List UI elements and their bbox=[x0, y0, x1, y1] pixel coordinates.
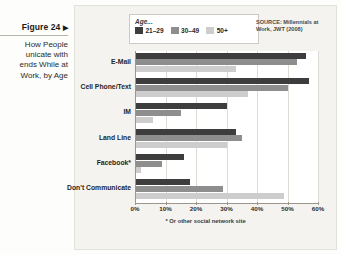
bar bbox=[135, 53, 306, 59]
chart-footnote: * Or other social network site bbox=[75, 218, 336, 224]
bar bbox=[135, 59, 297, 65]
bar bbox=[135, 179, 190, 185]
x-tick-mark bbox=[196, 202, 197, 205]
legend-item-0: 21–29 bbox=[135, 27, 164, 34]
category-label: Land Line bbox=[99, 134, 131, 141]
bar bbox=[135, 78, 309, 84]
x-tick-label: 60% bbox=[312, 205, 324, 212]
figure-number-text: Figure 24 bbox=[22, 22, 61, 32]
category-label: Cell Phone/Text bbox=[81, 83, 131, 90]
bar bbox=[135, 66, 236, 72]
legend-item-1: 30–49 bbox=[171, 27, 200, 34]
bar bbox=[135, 91, 248, 97]
x-tick-mark bbox=[135, 202, 136, 205]
bar-group-3: Land Line bbox=[135, 129, 318, 151]
x-tick-mark bbox=[288, 202, 289, 205]
legend-items: 21–2930–4950+ bbox=[135, 27, 253, 34]
x-tick-label: 50% bbox=[281, 205, 293, 212]
legend-title: Age... bbox=[135, 18, 253, 25]
x-axis-ticks: 0%10%20%30%40%50%60% bbox=[135, 205, 318, 215]
caption-line-1: unicate with bbox=[0, 50, 68, 60]
category-label: E-Mail bbox=[111, 58, 131, 65]
legend-swatch-icon bbox=[206, 27, 214, 34]
x-tick-mark bbox=[227, 202, 228, 205]
category-label: IM bbox=[123, 108, 131, 115]
bar bbox=[135, 129, 236, 135]
bar bbox=[135, 117, 153, 123]
bar-group-0: E-Mail bbox=[135, 53, 318, 75]
legend-label: 30–49 bbox=[181, 27, 199, 34]
category-label: Facebook* bbox=[97, 159, 131, 166]
legend-item-2: 50+ bbox=[206, 27, 228, 34]
bar-group-1: Cell Phone/Text bbox=[135, 78, 318, 100]
caption-line-2: ends While at bbox=[0, 60, 68, 70]
caption-line-3: Work, by Age bbox=[0, 71, 68, 81]
bar bbox=[135, 142, 227, 148]
figure-number: Figure 24 ▶ bbox=[0, 22, 68, 32]
x-tick-label: 10% bbox=[159, 205, 171, 212]
caption-divider bbox=[0, 35, 68, 36]
source-note: SOURCE: Millennials at Work, JWT (2008) bbox=[256, 19, 330, 33]
bar bbox=[135, 154, 184, 160]
y-axis-line bbox=[135, 51, 136, 203]
x-tick-mark bbox=[257, 202, 258, 205]
bar bbox=[135, 103, 227, 109]
category-label: Don't Communicate bbox=[67, 184, 131, 191]
x-tick-label: 20% bbox=[190, 205, 202, 212]
x-tick-mark bbox=[166, 202, 167, 205]
legend-swatch-icon bbox=[171, 27, 179, 34]
bar bbox=[135, 135, 242, 141]
bar bbox=[135, 110, 181, 116]
bar bbox=[135, 161, 162, 167]
x-tick-label: 40% bbox=[251, 205, 263, 212]
bar-group-4: Facebook* bbox=[135, 154, 318, 176]
bar bbox=[135, 85, 288, 91]
x-tick-label: 0% bbox=[131, 205, 140, 212]
chart-panel: Age... 21–2930–4950+ SOURCE: Millennials… bbox=[74, 5, 337, 250]
chart-legend: Age... 21–2930–4950+ bbox=[129, 14, 259, 44]
caption-line-0: How People bbox=[0, 40, 68, 50]
bar bbox=[135, 186, 223, 192]
bar bbox=[135, 193, 284, 199]
bar-group-2: IM bbox=[135, 103, 318, 125]
gridline-60 bbox=[318, 51, 319, 203]
legend-label: 50+ bbox=[217, 27, 228, 34]
figure-caption: Figure 24 ▶ How People unicate with ends… bbox=[0, 22, 68, 81]
bar-group-5: Don't Communicate bbox=[135, 179, 318, 201]
legend-swatch-icon bbox=[135, 27, 143, 34]
legend-label: 21–29 bbox=[146, 27, 164, 34]
plot-area: E-MailCell Phone/TextIMLand LineFacebook… bbox=[135, 51, 318, 203]
x-tick-mark bbox=[318, 202, 319, 205]
x-tick-label: 30% bbox=[220, 205, 232, 212]
figure-page: Figure 24 ▶ How People unicate with ends… bbox=[0, 0, 341, 255]
caption-arrow-icon: ▶ bbox=[63, 24, 68, 31]
